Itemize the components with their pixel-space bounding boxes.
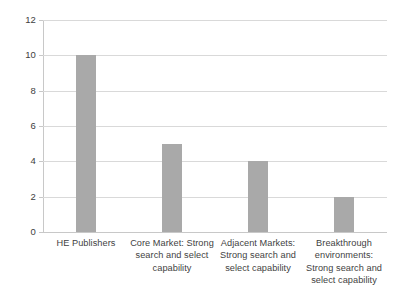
- x-axis-category-label-line: select capability: [215, 262, 301, 274]
- bar-chart: 12 10 8 6 4 2 0 HE PublishersCore Market…: [0, 0, 404, 299]
- y-axis-tick-label: 4: [6, 156, 36, 166]
- x-axis-category-label-line: select capability: [301, 274, 387, 286]
- x-axis-category-label: HE Publishers: [43, 237, 129, 249]
- y-axis-tick-labels: 12 10 8 6 4 2 0: [0, 0, 36, 299]
- x-axis-category-label-line: capability: [129, 262, 215, 274]
- y-axis-tick-label: 8: [6, 86, 36, 96]
- x-axis-category-label-line: Adjacent Markets:: [215, 237, 301, 249]
- x-axis-category-label: Adjacent Markets:Strong search andselect…: [215, 237, 301, 274]
- x-axis-category-label-line: environments:: [301, 249, 387, 261]
- y-axis-tick-label: 0: [6, 227, 36, 237]
- gridline: [43, 20, 387, 21]
- y-axis-tick-label: 10: [6, 50, 36, 60]
- x-axis-category-label-line: search and select: [129, 249, 215, 261]
- x-axis-category-label-line: Core Market: Strong: [129, 237, 215, 249]
- x-axis-category-label-line: Strong search and: [215, 249, 301, 261]
- bar[interactable]: [162, 144, 182, 232]
- x-axis-category-label: Core Market: Strongsearch and selectcapa…: [129, 237, 215, 274]
- bar[interactable]: [248, 161, 268, 232]
- x-axis-category-label-line: Breakthrough: [301, 237, 387, 249]
- y-axis-tick-label: 6: [6, 121, 36, 131]
- bar[interactable]: [334, 197, 354, 232]
- x-axis-category-labels: HE PublishersCore Market: Strongsearch a…: [43, 237, 387, 295]
- x-axis-category-label-line: Strong search and: [301, 262, 387, 274]
- x-axis-category-label-line: HE Publishers: [43, 237, 129, 249]
- plot-area: [43, 20, 387, 232]
- y-axis-tick-label: 12: [6, 15, 36, 25]
- gridline: [43, 232, 387, 233]
- bar[interactable]: [76, 55, 96, 232]
- x-axis-category-label: Breakthroughenvironments:Strong search a…: [301, 237, 387, 286]
- y-axis-tick-label: 2: [6, 192, 36, 202]
